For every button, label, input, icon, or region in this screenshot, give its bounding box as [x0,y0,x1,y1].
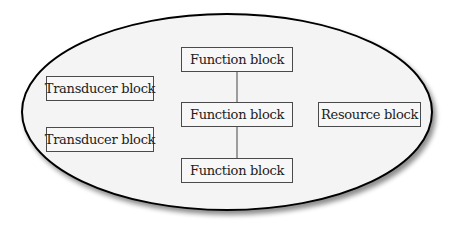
transducer-block-upper: Transducer block [46,76,154,101]
function-block-top: Function block [181,47,293,72]
function-block-middle: Function block [181,102,293,127]
transducer-block-lower: Transducer block [46,127,154,152]
function-block-bottom: Function block [181,158,293,183]
diagram-canvas: Function block Function block Function b… [0,0,456,226]
resource-block: Resource block [318,102,421,127]
